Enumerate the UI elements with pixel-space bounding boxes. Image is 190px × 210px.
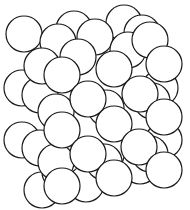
layer-front <box>44 46 182 204</box>
sphere <box>146 99 182 135</box>
sphere <box>96 160 132 196</box>
sphere <box>146 46 182 82</box>
sphere <box>146 152 182 188</box>
sphere <box>44 168 80 204</box>
sphere-packing-diagram <box>0 0 190 210</box>
sphere <box>6 16 42 52</box>
